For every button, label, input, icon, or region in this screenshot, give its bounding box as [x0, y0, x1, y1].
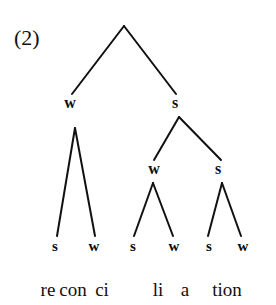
tree-node-s: s	[172, 95, 178, 111]
tree-edge	[75, 128, 95, 236]
tree-edge	[153, 183, 173, 236]
tree-edge	[124, 26, 176, 94]
tree-leaf-w: w	[238, 239, 249, 254]
syllable-re: re	[41, 280, 56, 299]
syllable-tion: tion	[212, 280, 242, 299]
tree-edge	[57, 128, 75, 236]
syllable-con: con	[59, 280, 86, 299]
tree-leaf-w: w	[89, 239, 100, 254]
tree-node-w: w	[64, 95, 76, 111]
tree-leaf-s: s	[206, 239, 212, 254]
tree-leaf-s: s	[52, 239, 58, 254]
tree-edge	[208, 183, 222, 236]
tree-edge	[134, 183, 153, 236]
tree-leaf-s: s	[130, 239, 136, 254]
syllable-li: li	[153, 280, 164, 299]
syllable-a: a	[181, 280, 189, 299]
tree-edge-group	[57, 26, 241, 236]
metrical-tree-figure: (2) wsws swswsw reconciliation	[0, 0, 276, 305]
tree-node-w: w	[148, 161, 160, 177]
tree-edge	[222, 183, 241, 236]
tree-edge	[72, 26, 124, 94]
tree-node-s: s	[215, 161, 221, 177]
syllable-ci: ci	[95, 280, 109, 299]
tree-leaf-w: w	[169, 239, 180, 254]
tree-edges-svg	[0, 0, 276, 305]
tree-edge	[179, 117, 221, 160]
tree-edge	[154, 117, 179, 160]
